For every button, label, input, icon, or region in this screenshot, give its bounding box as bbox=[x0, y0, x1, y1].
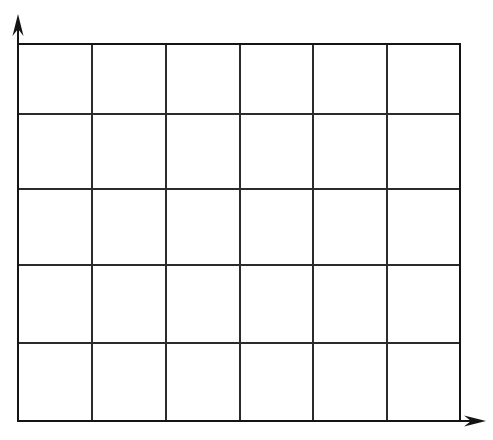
grid-cell-r4-c3 bbox=[166, 265, 240, 343]
grid-cell-r2-c3 bbox=[166, 114, 240, 189]
grid-cell-r4-c4 bbox=[240, 265, 313, 343]
grid-cell-r5-c4 bbox=[240, 343, 313, 421]
grid-cell-r5-c5 bbox=[313, 343, 387, 421]
grid-cell-r2-c4 bbox=[240, 114, 313, 189]
grid-cell-r2-c2 bbox=[92, 114, 166, 189]
grid-cell-r3-c3 bbox=[166, 189, 240, 265]
grid-cell-r2-c6 bbox=[387, 114, 460, 189]
grid-cell-r2-c1 bbox=[18, 114, 92, 189]
grid-cell-r4-c1 bbox=[18, 265, 92, 343]
grid-figure-canvas bbox=[0, 0, 493, 440]
grid-cell-r1-c1 bbox=[18, 44, 92, 114]
grid-cell-r1-c5 bbox=[313, 44, 387, 114]
grid-cell-r1-c2 bbox=[92, 44, 166, 114]
grid-cell-r3-c1 bbox=[18, 189, 92, 265]
grid-cell-r1-c3 bbox=[166, 44, 240, 114]
grid-cell-r3-c2 bbox=[92, 189, 166, 265]
grid-cell-r4-c6 bbox=[387, 265, 460, 343]
grid-cell-r3-c5 bbox=[313, 189, 387, 265]
grid-cell-r1-c4 bbox=[240, 44, 313, 114]
grid-cell-r3-c6 bbox=[387, 189, 460, 265]
grid-cell-r3-c4 bbox=[240, 189, 313, 265]
grid-cell-r5-c3 bbox=[166, 343, 240, 421]
grid-cell-r4-c5 bbox=[313, 265, 387, 343]
grid-cell-r5-c2 bbox=[92, 343, 166, 421]
grid-cell-r4-c2 bbox=[92, 265, 166, 343]
figure-root bbox=[0, 0, 493, 440]
grid-cell-r5-c6 bbox=[387, 343, 460, 421]
grid-cell-r2-c5 bbox=[313, 114, 387, 189]
grid-cells bbox=[18, 44, 460, 421]
grid-cell-r1-c6 bbox=[387, 44, 460, 114]
grid-cell-r5-c1 bbox=[18, 343, 92, 421]
